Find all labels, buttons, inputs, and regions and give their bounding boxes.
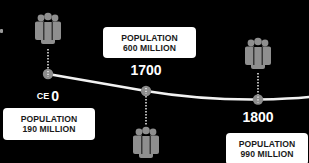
year-label-1800: 1800 <box>230 108 286 126</box>
year-value: 1800 <box>242 109 273 125</box>
event-ce0 <box>35 13 61 80</box>
people-group-icon <box>245 38 271 69</box>
population-label: POPULATION <box>239 139 296 149</box>
event-1700 <box>133 86 159 158</box>
population-box-ce0: POPULATION 190 MILLION <box>3 108 95 140</box>
year-prefix: CE <box>37 91 50 101</box>
timeline-line <box>48 74 309 100</box>
population-value: 600 MILLION <box>123 43 176 53</box>
event-1800 <box>245 38 271 105</box>
population-value: 190 MILLION <box>22 124 75 134</box>
population-value: 990 MILLION <box>240 149 293 159</box>
year-value: 1700 <box>130 62 161 78</box>
year-value: 0 <box>51 88 59 104</box>
year-label-1700: 1700 <box>116 62 176 78</box>
year-label-ce0: CE0 <box>22 87 74 105</box>
population-label: POPULATION <box>21 114 78 124</box>
population-label: POPULATION <box>121 33 178 43</box>
people-group-icon <box>35 13 61 44</box>
population-box-1800: POPULATION 990 MILLION <box>226 133 308 163</box>
edge-marker <box>0 29 3 33</box>
population-box-1700: POPULATION 600 MILLION <box>103 27 196 58</box>
people-group-icon <box>133 127 159 158</box>
